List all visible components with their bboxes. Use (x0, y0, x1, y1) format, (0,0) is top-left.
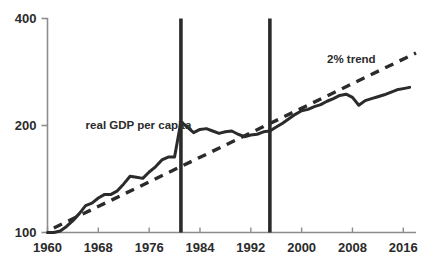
y-tick-label-100: 100 (15, 225, 37, 240)
x-tick-label-1968: 1968 (84, 240, 113, 255)
x-tick-label-2008: 2008 (338, 240, 367, 255)
x-tick-label-2000: 2000 (287, 240, 316, 255)
y-tick-label-200: 200 (15, 118, 37, 133)
y-tick-label-400: 400 (15, 11, 37, 26)
gdp-trend-chart: 100200400 196019681976198419922000200820… (0, 0, 428, 265)
x-tick-label-1984: 1984 (186, 240, 216, 255)
chart-container: 100200400 196019681976198419922000200820… (0, 0, 428, 265)
x-tick-label-1992: 1992 (236, 240, 265, 255)
x-tick-label-1976: 1976 (135, 240, 164, 255)
series-label-trend: 2% trend (327, 53, 376, 65)
series-label-gdp: real GDP per capita (86, 119, 192, 131)
x-tick-label-2016: 2016 (389, 240, 418, 255)
x-tick-label-1960: 1960 (33, 240, 62, 255)
